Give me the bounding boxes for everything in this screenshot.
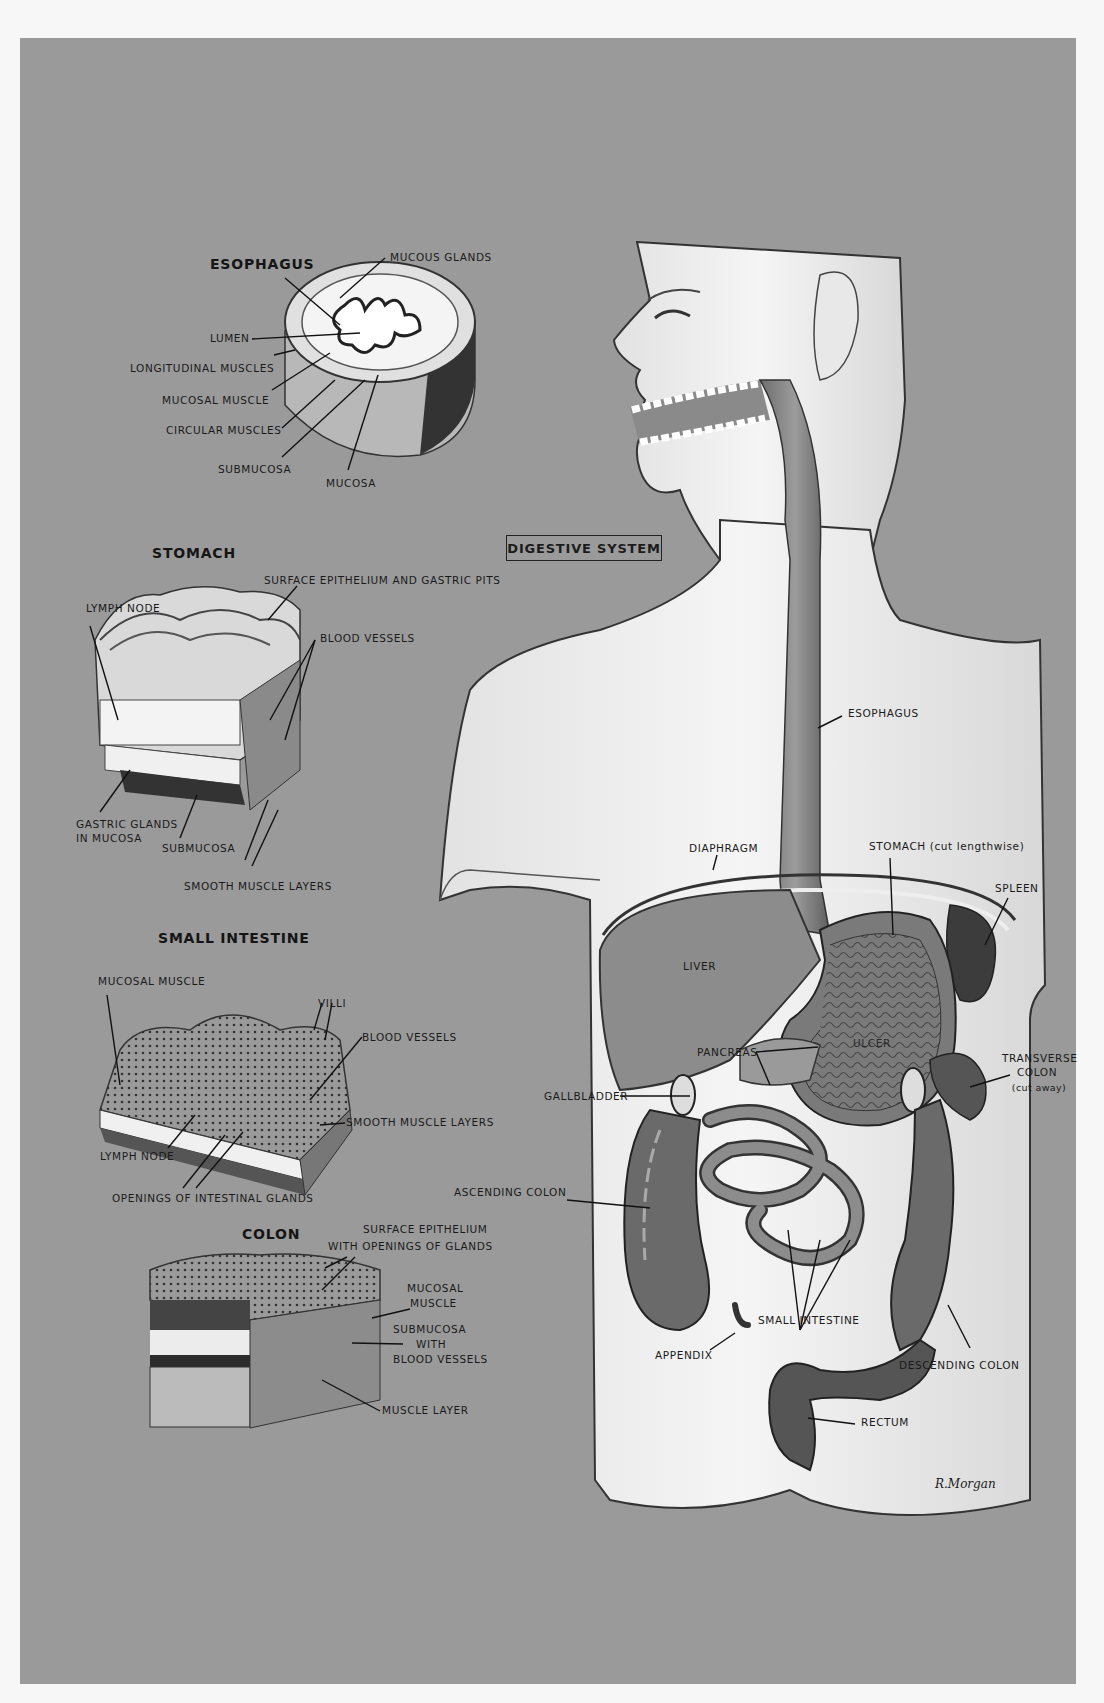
colon-tissue-block — [150, 1254, 380, 1428]
label-ulcer: ULCER — [853, 1037, 891, 1050]
label-gastric-glands: GASTRIC GLANDS — [76, 818, 178, 831]
label-circular-muscles: CIRCULAR MUSCLES — [166, 424, 282, 437]
label-small-intestine-body: SMALL INTESTINE — [758, 1314, 860, 1327]
label-stomach-body: STOMACH (cut lengthwise) — [869, 840, 1024, 853]
label-longitudinal-muscles: LONGITUDINAL MUSCLES — [130, 362, 274, 375]
label-submucosa-stomach: SUBMUCOSA — [162, 842, 235, 855]
label-gallbladder: GALLBLADDER — [544, 1090, 628, 1103]
label-mucosal-muscle: MUCOSAL MUSCLE — [162, 394, 269, 407]
label-blood-vessels: BLOOD VESSELS — [320, 632, 415, 645]
label-liver: LIVER — [683, 960, 716, 973]
label-pancreas: PANCREAS — [697, 1046, 758, 1059]
label-blood-vessels-si: BLOOD VESSELS — [362, 1031, 457, 1044]
label-mucosal-muscle-si: MUCOSAL MUSCLE — [98, 975, 205, 988]
label-with: WITH — [416, 1338, 446, 1351]
label-transverse: TRANSVERSE — [1002, 1052, 1072, 1065]
label-mucous-glands: MUCOUS GLANDS — [390, 251, 492, 264]
label-smooth-muscle-layers-si: SMOOTH MUSCLE LAYERS — [346, 1116, 494, 1129]
label-rectum: RECTUM — [861, 1416, 909, 1429]
label-muscle: MUSCLE — [410, 1297, 457, 1310]
label-muscle-layer: MUSCLE LAYER — [382, 1404, 469, 1417]
label-surface-epithelium-colon: SURFACE EPITHELIUM — [363, 1223, 488, 1236]
label-mucosa: MUCOSA — [326, 477, 376, 490]
label-ascending-colon: ASCENDING COLON — [454, 1186, 566, 1199]
label-lymph-node: LYMPH NODE — [86, 602, 160, 615]
small-intestine-tissue-block — [100, 1015, 352, 1195]
esophagus-heading: ESOPHAGUS — [210, 256, 315, 272]
torso-figure — [440, 242, 1045, 1515]
label-blood-vessels-colon: BLOOD VESSELS — [393, 1353, 488, 1366]
label-descending-colon: DESCENDING COLON — [899, 1359, 1020, 1372]
label-openings-intestinal-glands: OPENINGS OF INTESTINAL GLANDS — [112, 1192, 314, 1205]
artist-signature: R.Morgan — [935, 1477, 996, 1491]
label-smooth-muscle-layers-stomach: SMOOTH MUSCLE LAYERS — [184, 880, 332, 893]
label-esophagus-body: ESOPHAGUS — [848, 707, 919, 720]
label-spleen: SPLEEN — [995, 882, 1039, 895]
label-lumen: LUMEN — [210, 332, 250, 345]
colon-heading: COLON — [242, 1226, 300, 1242]
stomach-heading: STOMACH — [152, 545, 236, 561]
label-surface-epithelium-gastric-pits: SURFACE EPITHELIUM AND GASTRIC PITS — [264, 574, 501, 587]
label-mucosal: MUCOSAL — [407, 1282, 463, 1295]
label-appendix: APPENDIX — [655, 1349, 713, 1362]
small-intestine-heading: SMALL INTESTINE — [158, 930, 310, 946]
label-diaphragm: DIAPHRAGM — [689, 842, 758, 855]
label-villi: VILLI — [318, 997, 346, 1010]
label-submucosa: SUBMUCOSA — [218, 463, 291, 476]
label-with-openings-of-glands: WITH OPENINGS OF GLANDS — [328, 1240, 493, 1253]
label-colon-word: COLON — [1002, 1066, 1072, 1079]
label-submucosa-colon: SUBMUCOSA — [393, 1323, 466, 1336]
label-lymph-node-si: LYMPH NODE — [100, 1150, 174, 1163]
label-in-mucosa: IN MUCOSA — [76, 832, 142, 845]
label-cut-away: (cut away) — [1004, 1081, 1074, 1094]
diagram-title: DIGESTIVE SYSTEM — [506, 535, 662, 561]
